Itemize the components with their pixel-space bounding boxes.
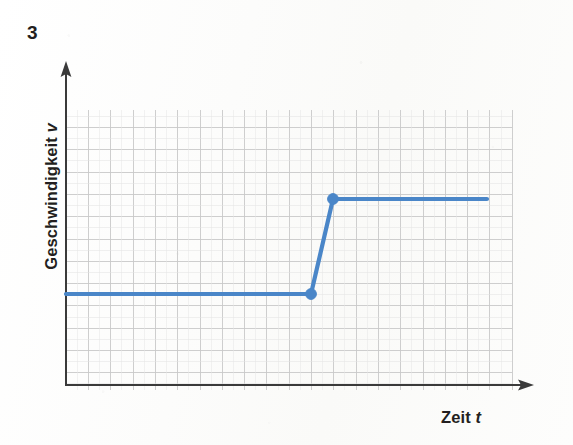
chart-axes (61, 61, 534, 390)
chart-gridlines (66, 110, 512, 390)
y-axis-variable: v (42, 123, 60, 132)
exercise-number: 3 (27, 22, 38, 44)
y-axis-label-text: Geschwindigkeit (42, 137, 60, 270)
x-axis-label-text: Zeit (441, 408, 471, 426)
data-point-marker-lower (306, 289, 317, 300)
x-axis-label: Zeit t (441, 408, 481, 427)
velocity-curve-path (66, 199, 487, 294)
velocity-time-chart (0, 0, 573, 445)
velocity-time-figure: 3 Geschwindigkeit v Zeit t (0, 0, 573, 445)
data-point-marker-upper (328, 194, 339, 205)
x-axis-variable: t (475, 408, 481, 426)
y-axis-label: Geschwindigkeit v (42, 102, 61, 292)
